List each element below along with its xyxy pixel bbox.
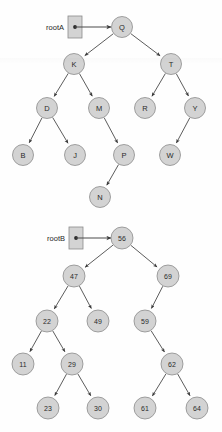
node-label-D: D <box>44 104 50 113</box>
tree-edge-D-B <box>29 118 42 143</box>
node-label-61: 61 <box>141 405 149 412</box>
tree-edge-D-J <box>53 117 68 143</box>
tree-edge-22-29 <box>53 331 65 352</box>
node-label-K: K <box>71 60 76 69</box>
tree-node-Y[interactable]: Y <box>185 98 206 119</box>
tree-edge-T-Y <box>176 74 188 96</box>
node-label-W: W <box>166 151 174 160</box>
node-label-29: 29 <box>68 361 76 368</box>
tree-edge-47-22 <box>54 286 68 309</box>
tree-node-W[interactable]: W <box>160 145 181 166</box>
node-label-22: 22 <box>43 318 51 325</box>
tree-a: rootAQKTDMRYBJPWN <box>13 16 206 208</box>
node-label-Q: Q <box>119 23 125 32</box>
tree-edge-Y-W <box>176 118 189 143</box>
tree-edge-59-62 <box>151 331 164 352</box>
tree-edge-Q-K <box>85 34 113 56</box>
node-label-23: 23 <box>44 405 52 412</box>
tree-node-P[interactable]: P <box>114 145 135 166</box>
tree-edge-P-N <box>107 165 119 186</box>
tree-node-M[interactable]: M <box>89 98 110 119</box>
node-label-J: J <box>73 151 77 160</box>
tree-edge-29-30 <box>78 374 91 396</box>
tree-node-47[interactable]: 47 <box>63 265 85 287</box>
tree-edge-62-61 <box>152 374 166 396</box>
node-label-30: 30 <box>94 405 102 412</box>
tree-b: rootB56476922495911296223306164 <box>12 227 208 419</box>
node-label-49: 49 <box>94 318 102 325</box>
tree-node-R[interactable]: R <box>135 98 156 119</box>
tree-node-T[interactable]: T <box>161 54 182 75</box>
tree-node-56[interactable]: 56 <box>111 227 133 249</box>
node-label-M: M <box>96 104 102 113</box>
tree-edge-T-R <box>152 73 165 96</box>
node-label-P: P <box>121 151 126 160</box>
tree-node-N[interactable]: N <box>90 187 111 208</box>
tree-node-30[interactable]: 30 <box>87 397 109 419</box>
tree-edge-56-69 <box>131 245 157 267</box>
tree-node-69[interactable]: 69 <box>157 265 179 287</box>
tree-b-root-label: rootB <box>47 234 65 243</box>
node-label-T: T <box>169 60 174 69</box>
node-label-11: 11 <box>19 361 26 368</box>
tree-node-K[interactable]: K <box>64 54 85 75</box>
node-label-64: 64 <box>193 405 201 412</box>
node-label-59: 59 <box>141 318 149 325</box>
tree-node-49[interactable]: 49 <box>87 310 109 332</box>
tree-edge-K-D <box>54 73 68 96</box>
tree-node-23[interactable]: 23 <box>37 397 59 419</box>
tree-edge-29-23 <box>55 374 67 395</box>
tree-edge-47-49 <box>79 286 91 308</box>
binary-tree-figure: rootAQKTDMRYBJPWNrootB564769224959112962… <box>0 0 222 432</box>
node-label-N: N <box>97 193 102 202</box>
node-label-47: 47 <box>70 273 78 280</box>
tree-node-62[interactable]: 62 <box>161 353 183 375</box>
tree-node-61[interactable]: 61 <box>134 397 156 419</box>
node-label-R: R <box>142 104 148 113</box>
tree-node-22[interactable]: 22 <box>36 310 58 332</box>
node-label-56: 56 <box>118 235 126 242</box>
tree-a-root-label: rootA <box>46 23 64 32</box>
node-label-Y: Y <box>192 104 197 113</box>
tree-edge-56-47 <box>85 245 113 267</box>
tree-node-Q[interactable]: Q <box>112 17 133 38</box>
node-label-69: 69 <box>164 273 172 280</box>
tree-edge-K-M <box>79 74 92 97</box>
tree-edge-M-P <box>104 118 117 143</box>
tree-node-J[interactable]: J <box>65 145 86 166</box>
node-label-62: 62 <box>168 361 176 368</box>
tree-node-B[interactable]: B <box>13 145 34 166</box>
tree-edge-69-59 <box>151 286 162 308</box>
tree-node-29[interactable]: 29 <box>61 353 83 375</box>
tree-edge-62-64 <box>178 374 190 396</box>
tree-node-64[interactable]: 64 <box>186 397 208 419</box>
tree-node-11[interactable]: 11 <box>12 353 34 375</box>
tree-node-D[interactable]: D <box>37 98 58 119</box>
tree-edge-22-11 <box>30 331 41 352</box>
tree-diagram-canvas: rootAQKTDMRYBJPWNrootB564769224959112962… <box>0 0 222 432</box>
tree-edge-Q-T <box>131 34 160 56</box>
tree-node-59[interactable]: 59 <box>134 310 156 332</box>
node-label-B: B <box>20 151 25 160</box>
